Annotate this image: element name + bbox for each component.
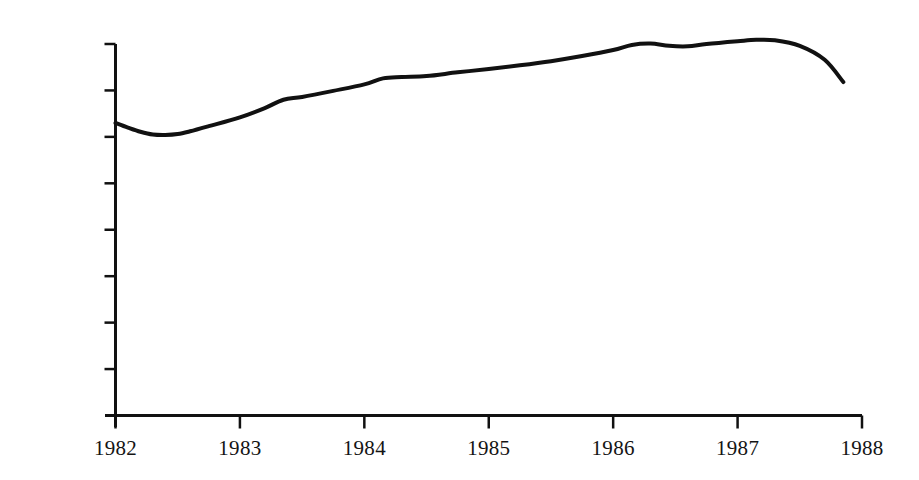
x-axis-tick-label: 1985 (467, 438, 510, 459)
x-axis-tick-label: 1984 (343, 438, 386, 459)
x-axis-tick-label: 1988 (840, 438, 883, 459)
x-axis-tick-label: 1987 (716, 438, 759, 459)
x-axis-tick-label: 1983 (218, 438, 261, 459)
x-axis-tick-label: 1982 (94, 438, 137, 459)
x-axis-tick-label: 1986 (592, 438, 635, 459)
x-axis-tick-labels: 1982198319841985198619871988 (0, 0, 919, 480)
line-chart: 10002000300040005000600070008000 1982198… (0, 0, 919, 480)
